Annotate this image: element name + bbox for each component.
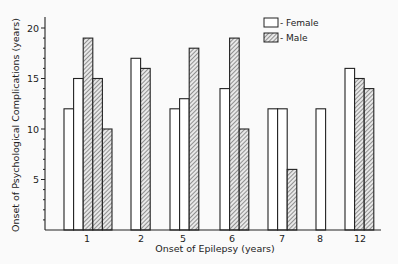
bar-group-7: [268, 109, 297, 230]
bar-female: [64, 109, 74, 230]
bar-male: [102, 129, 112, 230]
y-tick-label: 15: [27, 73, 39, 84]
bar-female: [180, 99, 190, 230]
y-axis-title: Onset of Psychological Complications (ye…: [10, 18, 21, 232]
bar-male: [141, 68, 151, 230]
x-axis: 12567812: [45, 230, 381, 244]
x-tick-label: 8: [317, 233, 323, 244]
bar-male: [189, 48, 199, 230]
legend: - Female - Male: [264, 18, 319, 43]
bar-group-8: [316, 109, 326, 230]
y-tick-label: 5: [33, 174, 39, 185]
bar-female: [220, 89, 230, 230]
bar-male: [287, 169, 297, 230]
bar-male: [239, 129, 249, 230]
bar-group-12: [345, 68, 374, 230]
bar-female: [74, 79, 84, 231]
x-tick-label: 1: [84, 233, 90, 244]
bars-area: [64, 38, 374, 230]
bar-female: [268, 109, 278, 230]
y-tick-label: 10: [27, 124, 39, 135]
bar-female: [316, 109, 326, 230]
legend-swatch-open: [264, 18, 278, 27]
bar-male: [364, 89, 374, 230]
bar-female: [170, 109, 180, 230]
bar-male: [230, 38, 240, 230]
y-axis-label: Onset of Psychological Complications (ye…: [10, 18, 21, 232]
legend-swatch-hatched: [264, 33, 278, 42]
bar-male: [83, 38, 93, 230]
bar-male: [355, 79, 365, 231]
bar-group-2: [131, 58, 150, 230]
legend-item-female: - Female: [264, 18, 319, 28]
y-tick-label: 20: [27, 23, 39, 34]
bar-female: [278, 109, 288, 230]
bar-group-1: [64, 38, 112, 230]
legend-label-female: - Female: [280, 18, 319, 28]
y-axis: 5101520: [27, 17, 45, 230]
bar-male: [93, 79, 103, 231]
x-tick-label: 7: [279, 233, 285, 244]
bar-female: [131, 58, 141, 230]
bar-female: [345, 68, 355, 230]
x-tick-label: 2: [138, 233, 144, 244]
bar-chart: Onset of Psychological Complications (ye…: [0, 0, 398, 264]
bar-group-5: [170, 48, 199, 230]
x-tick-label: 12: [354, 233, 366, 244]
x-axis-title: Onset of Epilepsy (years): [155, 243, 275, 254]
legend-item-male: - Male: [264, 33, 308, 43]
legend-label-male: - Male: [280, 33, 308, 43]
bar-group-6: [220, 38, 249, 230]
